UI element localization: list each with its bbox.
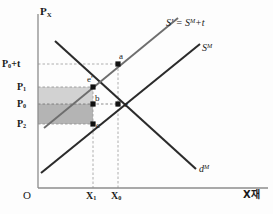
- x-tick-label-x1: X1: [86, 191, 96, 202]
- supply-demand-tax-chart: PX P0+t P1 P0 P2 X1 X0 O X재 S' = SM+t SM…: [0, 0, 273, 214]
- y-tick-label-p0: P0: [17, 99, 26, 110]
- x-tick-label-x0: X0: [111, 191, 121, 202]
- point-marker-a: [115, 61, 120, 66]
- y-tick-label-p1: P1: [17, 82, 26, 93]
- point-marker-e: [115, 101, 120, 106]
- point-label-e-prime: e': [87, 75, 93, 84]
- supply-with-tax-curve: [44, 18, 178, 128]
- point-label-b: b: [95, 94, 100, 103]
- y-tick-label-p2: P2: [17, 119, 26, 130]
- point-marker-e-prime: [90, 84, 95, 89]
- point-label-c: c: [96, 121, 100, 130]
- x-axis-title: X재: [243, 190, 260, 200]
- chart-canvas: [0, 0, 273, 214]
- y-tick-label-p0-plus-t: P0+t: [2, 59, 20, 70]
- origin-label: O: [23, 190, 31, 201]
- demand-curve-label: dM: [199, 164, 209, 174]
- y-axis-title: PX: [40, 6, 52, 18]
- point-marker-c: [90, 121, 95, 126]
- point-label-a: a: [119, 52, 123, 61]
- supply-curve-label: SM: [202, 43, 212, 53]
- supply-with-tax-curve-label: S' = SM+t: [166, 18, 205, 28]
- producer-tax-burden-region: [38, 104, 93, 124]
- point-label-e: e: [124, 100, 128, 109]
